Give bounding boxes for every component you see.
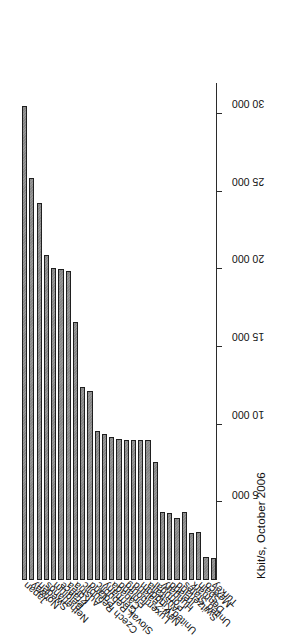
category-label: Spain xyxy=(195,580,222,606)
axis-tick-label: 10 000 xyxy=(232,403,264,415)
axis-tick-label: 20 000 xyxy=(232,247,264,259)
bar-row xyxy=(109,83,114,580)
bar xyxy=(73,322,78,580)
axis-tick xyxy=(217,268,222,269)
bar-row xyxy=(80,83,85,580)
bar xyxy=(182,512,187,580)
category-label: Slovak Republic xyxy=(94,580,156,637)
axis-tick-label: 25 000 xyxy=(232,170,264,182)
bar xyxy=(109,437,114,580)
category-label: Sweden xyxy=(35,580,70,613)
category-label: Netherlands xyxy=(43,580,91,625)
bar xyxy=(29,178,34,580)
category-label: Luxembourg xyxy=(123,580,172,626)
bar xyxy=(196,532,201,580)
bar xyxy=(145,440,150,580)
bar xyxy=(167,513,172,580)
category-label: Korea xyxy=(64,580,92,606)
category-label: Australia xyxy=(144,580,181,615)
category-label: New Zealand xyxy=(130,580,182,628)
bar-row xyxy=(87,83,92,580)
category-label: Ireland xyxy=(166,580,197,609)
bar-row xyxy=(131,83,136,580)
bar xyxy=(211,558,216,580)
bar-row xyxy=(51,83,56,580)
bar xyxy=(138,440,143,580)
category-label: Czech Republic xyxy=(79,580,139,636)
axis-tick xyxy=(217,113,222,114)
bar-row xyxy=(58,83,63,580)
bar xyxy=(37,203,42,580)
bar-row xyxy=(167,83,172,580)
category-label: France xyxy=(57,580,88,609)
axis-tick-label: 5 000 xyxy=(232,483,258,495)
category-label: Portugal xyxy=(152,580,188,614)
category-label: Poland xyxy=(86,580,117,609)
bar-row xyxy=(66,83,71,580)
bar-row xyxy=(211,83,216,580)
axis-tick xyxy=(217,424,222,425)
bar-row xyxy=(145,83,150,580)
bar xyxy=(66,271,71,580)
bar xyxy=(160,512,165,580)
bar-row xyxy=(22,83,27,580)
axis-tick-label: 15 000 xyxy=(232,325,264,337)
bar xyxy=(203,557,208,580)
category-label: Switzerland xyxy=(173,580,220,623)
category-label: Norway xyxy=(28,580,61,611)
category-label: Turkey xyxy=(210,580,240,609)
bar xyxy=(124,440,129,580)
bar xyxy=(22,106,27,580)
bar-row xyxy=(102,83,107,580)
bar-row xyxy=(203,83,208,580)
category-label: Japan xyxy=(21,580,49,607)
bar xyxy=(80,387,85,580)
bar xyxy=(102,434,107,580)
bar xyxy=(58,269,63,580)
bar-row xyxy=(44,83,49,580)
bar-row xyxy=(160,83,165,580)
bar-row xyxy=(95,83,100,580)
bar-series xyxy=(21,83,217,580)
bar xyxy=(116,439,121,580)
bar xyxy=(51,268,56,580)
bar-row xyxy=(189,83,194,580)
category-label: Austria xyxy=(72,580,103,609)
bar xyxy=(95,431,100,580)
bar-row xyxy=(174,83,179,580)
bar xyxy=(44,255,49,580)
category-label: Hungary xyxy=(159,580,195,614)
bar-row xyxy=(138,83,143,580)
bar-row xyxy=(153,83,158,580)
category-label: Finland xyxy=(115,580,147,611)
axis-tick xyxy=(217,191,222,192)
category-label: United States xyxy=(181,580,234,629)
bar-row xyxy=(116,83,121,580)
bar-row xyxy=(196,83,201,580)
bar xyxy=(131,440,136,580)
bar xyxy=(153,462,158,580)
bar xyxy=(189,533,194,580)
plot-area: 5 00010 00015 00020 00025 00030 000 Japa… xyxy=(21,83,217,580)
bar xyxy=(87,391,92,580)
category-label: Denmark xyxy=(188,580,226,616)
category-label: Belgium xyxy=(50,580,85,613)
bar-row xyxy=(37,83,42,580)
bar-row xyxy=(124,83,129,580)
axis-tick xyxy=(217,501,222,502)
bar-row xyxy=(29,83,34,580)
axis-tick xyxy=(217,346,222,347)
category-label: United Kingdom xyxy=(137,580,198,637)
category-label: Canada xyxy=(108,580,142,612)
category-label: Mexico xyxy=(202,580,233,610)
bar-row xyxy=(182,83,187,580)
axis-tick-label: 30 000 xyxy=(232,92,264,104)
bar-row xyxy=(73,83,78,580)
bar xyxy=(174,518,179,580)
category-label: Germany xyxy=(101,580,140,616)
